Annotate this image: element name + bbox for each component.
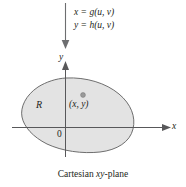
point-coordinate-label: (x, y) bbox=[69, 99, 89, 109]
caption-prefix: Cartesian bbox=[58, 169, 96, 179]
region-label-R: R bbox=[36, 99, 42, 110]
coordinate-axes bbox=[0, 0, 186, 187]
y-axis-label: y bbox=[59, 52, 63, 62]
caption-suffix: -plane bbox=[104, 169, 128, 179]
origin-label: 0 bbox=[57, 129, 62, 139]
figure-caption: Cartesian xy-plane bbox=[0, 169, 186, 179]
cartesian-plane-figure: x = g(u, v) y = h(u, v) y x R 0 (x, y) C… bbox=[0, 0, 186, 187]
x-axis-label: x bbox=[172, 121, 176, 131]
